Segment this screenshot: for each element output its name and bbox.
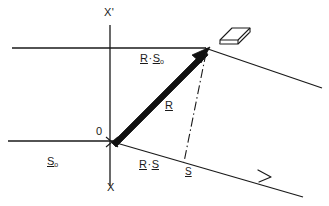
r-dot-s-label: R·S (139, 158, 159, 170)
vector-diagram-figure: X' X 0 R·So R So R·S S (0, 0, 329, 206)
lower-ray-arrowhead (258, 170, 271, 182)
x-axis-label: X (107, 181, 115, 193)
r-dot-s0-subscript: o (160, 58, 164, 65)
r-dot-s-base: R (139, 158, 147, 170)
s0-subscript: o (54, 161, 58, 168)
r-base: R (165, 99, 173, 111)
r-dot-s0-base: R (140, 52, 148, 64)
r-dot-s-second: S (152, 158, 159, 170)
r-vector-label: R (165, 99, 173, 111)
origin-label: 0 (96, 125, 103, 137)
scattering-slab-icon (220, 28, 250, 44)
s-base: S (185, 166, 192, 177)
r-dot-s0-second: S (153, 52, 160, 64)
x-prime-axis-label: X' (104, 6, 114, 18)
r-dot-s0-label: R·So (140, 52, 164, 64)
s0-vector-label: So (47, 155, 58, 167)
s-vector-label: S (185, 166, 192, 177)
upper-scattered-ray (205, 48, 322, 88)
